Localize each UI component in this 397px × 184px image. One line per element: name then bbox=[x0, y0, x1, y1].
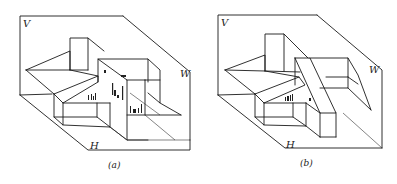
projection-marks-b bbox=[285, 94, 311, 101]
proj-line-2-a bbox=[145, 115, 175, 140]
roof-left-b bbox=[225, 55, 265, 71]
label-h-b: H bbox=[285, 139, 295, 150]
label-v-b: V bbox=[221, 17, 230, 28]
v-bottom-edge-b bbox=[218, 94, 255, 95]
roof-diag-b bbox=[225, 70, 255, 94]
front-box-bottom-a bbox=[54, 117, 110, 127]
figure-a: V W H (a) bbox=[20, 16, 191, 170]
back-box-top-b bbox=[284, 34, 308, 58]
slant-ridge-a bbox=[70, 70, 98, 76]
label-h-a: H bbox=[89, 140, 99, 151]
right-notch-a bbox=[148, 59, 160, 103]
caption-a: (a) bbox=[108, 160, 121, 170]
w-plane-b bbox=[317, 15, 382, 148]
v-bottom-edge-a bbox=[20, 94, 52, 95]
proj-line-b bbox=[343, 113, 382, 148]
right-notch-w-a bbox=[160, 103, 181, 115]
slant-roof-b bbox=[255, 77, 305, 103]
projection-diagrams: V W H (a) bbox=[0, 0, 397, 184]
back-box-b bbox=[265, 34, 284, 71]
v-plane-b bbox=[218, 15, 317, 95]
label-v-a: V bbox=[23, 18, 32, 29]
slab-base-b bbox=[306, 126, 320, 137]
roof-diag-a bbox=[26, 70, 54, 94]
right-notch-low-b bbox=[348, 77, 358, 84]
inclined-slab-b bbox=[295, 58, 336, 113]
label-w-b: W bbox=[369, 64, 380, 75]
back-box-top-a bbox=[88, 38, 104, 51]
v-plane-a bbox=[20, 16, 123, 95]
label-w-a: W bbox=[180, 68, 191, 79]
proj-line-1-a bbox=[110, 127, 127, 140]
roof-left-a bbox=[26, 51, 70, 70]
right-notch-w-b bbox=[348, 58, 371, 110]
caption-b: (b) bbox=[300, 158, 313, 168]
figure-b: V W H (b) bbox=[218, 15, 382, 168]
right-notch-b bbox=[310, 58, 348, 88]
right-notch-inner-b bbox=[348, 88, 371, 110]
back-box-a bbox=[70, 38, 88, 70]
front-box-bottom-b bbox=[255, 117, 306, 126]
